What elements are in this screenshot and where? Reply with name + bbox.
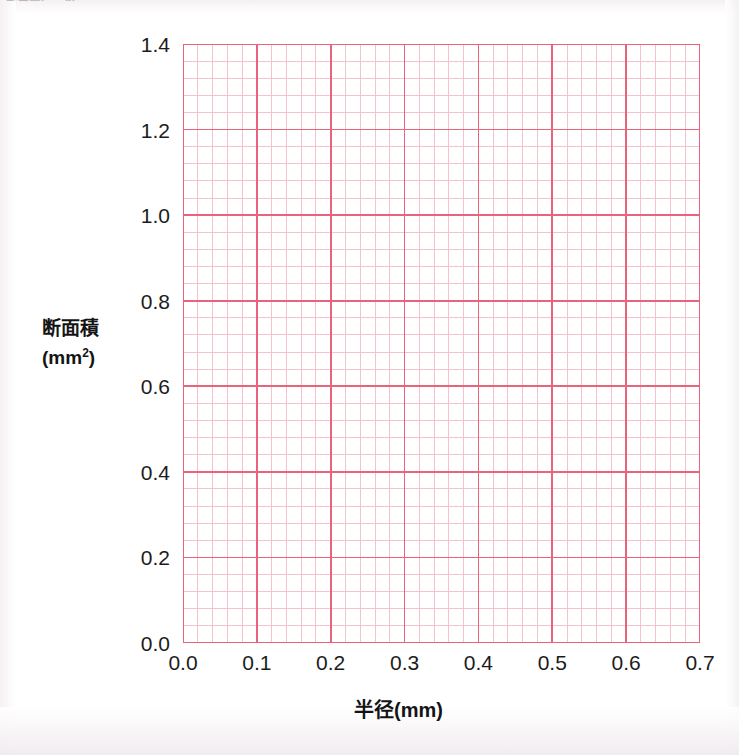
y-axis-unit-exponent: 2 xyxy=(82,346,89,360)
y-axis-tick-label: 0.6 xyxy=(104,376,170,397)
y-axis-title-line1: 断面積 xyxy=(42,316,152,341)
x-axis-tick-label: 0.4 xyxy=(443,652,513,673)
grid-svg xyxy=(183,44,700,643)
y-axis-unit-pre: (mm xyxy=(42,347,82,368)
x-axis-tick-label: 0.7 xyxy=(665,652,735,673)
x-axis-tick-label: 0.5 xyxy=(517,652,587,673)
y-axis-title-unit: (mm2) xyxy=(42,341,152,370)
y-axis-tick-label: 0.0 xyxy=(104,633,170,654)
scan-edge-right xyxy=(725,0,739,755)
y-axis-tick-label: 0.4 xyxy=(104,462,170,483)
scan-edge-left xyxy=(0,0,16,755)
y-axis-tick-label: 1.0 xyxy=(104,205,170,226)
y-axis-tick-label: 0.2 xyxy=(104,547,170,568)
y-axis-title: 断面積 (mm2) xyxy=(42,316,152,370)
x-axis-tick-label: 0.6 xyxy=(591,652,661,673)
x-axis-title: 半径(mm) xyxy=(0,694,739,723)
graph-plot-area xyxy=(183,44,700,643)
x-axis-tick-label: 0.0 xyxy=(148,652,218,673)
y-axis-tick-label: 0.8 xyxy=(104,291,170,312)
x-axis-tick-label: 0.2 xyxy=(296,652,366,673)
y-axis-tick-label: 1.4 xyxy=(104,34,170,55)
x-axis-tick-labels: 0.00.10.20.30.40.50.60.7 xyxy=(183,652,700,682)
y-axis-tick-label: 1.2 xyxy=(104,120,170,141)
scanned-page: 断面積(mm2) 0.00.20.40.60.81.01.21.4 0.00.1… xyxy=(0,0,739,755)
x-axis-tick-label: 0.3 xyxy=(370,652,440,673)
y-axis-unit-post: ) xyxy=(89,347,95,368)
scan-edge-top xyxy=(0,0,739,14)
x-axis-tick-label: 0.1 xyxy=(222,652,292,673)
